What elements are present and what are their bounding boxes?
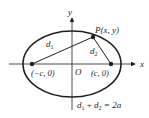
origin-label: O [75,67,82,77]
focus-left-point [30,62,34,66]
point-p-label: P(x, y) [94,25,119,35]
focus-right-label: (c, 0) [91,68,109,78]
x-axis-label: x [139,59,144,69]
d1-label: d1 [46,39,54,50]
d1-segment [32,37,93,64]
ellipse-diagram: y x O P(x, y) (−c, 0) (c, 0) d1 d2 d1 + … [0,0,149,118]
point-p [91,35,95,39]
y-axis-label: y [67,7,72,17]
equation-label: d1 + d2 = 2a [77,100,122,111]
focus-right-point [109,62,113,66]
d2-label: d2 [90,46,98,57]
focus-left-label: (−c, 0) [31,68,55,78]
